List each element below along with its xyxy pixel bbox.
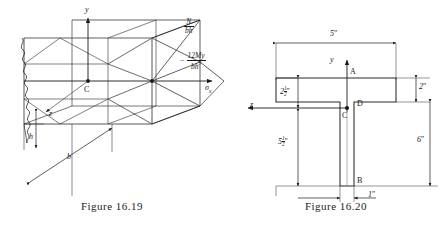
z-axis-group	[46, 81, 88, 112]
label-point-D: D	[357, 100, 363, 108]
label-stress-axial: N bh	[184, 18, 194, 35]
bending-inner-diag-d	[108, 99, 152, 124]
bending-diagonal-e	[152, 81, 200, 106]
centroid-point-C	[86, 79, 90, 83]
caption-figure-16-19-text: Figure 16.19	[81, 200, 143, 212]
label-dim-flange-width: 5″	[330, 30, 337, 38]
stress-bending-denominator: bh3	[187, 60, 206, 71]
label-dim-total-depth: 6″	[417, 136, 424, 144]
wedge-left-a	[24, 38, 60, 64]
bending-diagonal-f	[200, 81, 224, 106]
label-point-B: B	[357, 177, 362, 185]
dimension-below-centroid-group	[276, 112, 340, 196]
caption-figure-16-20: Figure 16.20	[224, 200, 448, 212]
dimension-b-arrow	[30, 128, 112, 182]
bending-bottom-edge	[152, 106, 200, 124]
caption-figure-16-19: Figure 16.19	[0, 200, 224, 212]
stress-axial-numerator: N	[184, 18, 194, 26]
figure-pair-container: y z σx C h b N bh − 12My bh3 Figure 16.1…	[0, 0, 448, 229]
label-z-axis: z	[49, 110, 52, 118]
label-dim-web-width: 1″	[368, 191, 375, 199]
stress-block-point	[150, 79, 154, 83]
stress-block-top-recede	[108, 20, 156, 38]
figure-16-19: y z σx C h b N bh − 12My bh3 Figure 16.1…	[0, 0, 224, 229]
label-dim-below-centroid: 512″	[278, 136, 288, 148]
figure-16-20: y z A B C D 5″ 2″ 6″ 1″ 212″ 512″	[224, 0, 448, 229]
bending-inner-diag-a	[108, 38, 152, 64]
label-y-axis: y	[330, 56, 334, 64]
t-section-outline	[276, 78, 396, 186]
label-stress-bending: − 12My bh3	[180, 52, 206, 71]
label-dim-b: b	[67, 153, 71, 161]
broken-edge-wave	[21, 38, 30, 143]
dimension-total-depth-group	[354, 102, 438, 186]
wedge-left-d	[60, 99, 108, 124]
label-dim-h: h	[29, 133, 33, 141]
stress-axial-denominator: bh	[184, 26, 194, 35]
prism-left-broken-edge	[24, 124, 27, 143]
label-point-C: C	[342, 112, 347, 120]
dimension-flange-width-group	[276, 43, 396, 80]
label-dim-above-centroid: 212″	[280, 86, 290, 98]
bending-inner-diag-c	[108, 81, 152, 99]
label-dim-flange-thickness: 2″	[419, 83, 426, 91]
stress-block-bottom-recede	[108, 106, 156, 124]
caption-figure-16-20-text: Figure 16.20	[305, 200, 367, 212]
label-point-A: A	[350, 68, 356, 76]
stress-bending-sign: −	[180, 56, 185, 65]
label-centroid-C: C	[84, 86, 89, 94]
label-z-axis: z	[250, 101, 253, 109]
label-sigma-x-axis: σx	[205, 84, 211, 94]
prism-top-face	[24, 20, 200, 38]
bending-inner-diag-b	[108, 64, 152, 81]
z-axis-arrow	[46, 81, 88, 112]
stress-bending-numerator: 12My	[187, 52, 206, 60]
wedge-left-c	[60, 38, 108, 64]
label-y-axis: y	[85, 6, 89, 14]
centroid-point-C	[345, 106, 349, 110]
